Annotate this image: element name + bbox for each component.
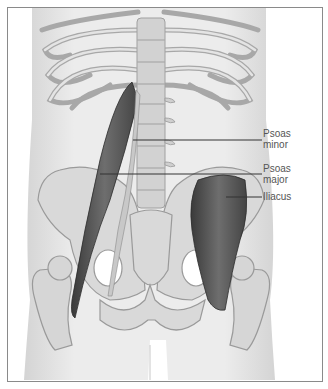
label-psoas-major: Psoas major xyxy=(263,163,291,185)
label-psoas-major-line1: Psoas xyxy=(263,163,291,174)
label-psoas-minor: Psoas minor xyxy=(263,128,291,150)
label-iliacus-line1: Iliacus xyxy=(263,191,291,202)
label-psoas-minor-line1: Psoas xyxy=(263,128,291,139)
label-psoas-minor-line2: minor xyxy=(263,139,291,150)
label-psoas-major-line2: major xyxy=(263,174,291,185)
label-iliacus: Iliacus xyxy=(263,191,291,202)
